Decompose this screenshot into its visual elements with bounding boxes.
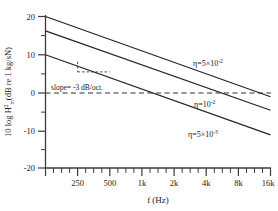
curve-label-eta-5e-2: η=5×10-2 <box>193 58 223 68</box>
chart-figure: 20 10 0 -10 -20 10 log H2m(dB re 1 kg/sN… <box>0 0 278 211</box>
y-tick-label-0: 0 <box>31 88 35 98</box>
y-tick-label-20: 20 <box>27 12 36 22</box>
x-tick-label-1k: 1k <box>138 178 147 188</box>
curve-label-eta-1e-2: η=10-2 <box>194 99 216 109</box>
y-tick-label-neg10: -10 <box>24 126 35 136</box>
x-tick-label-500: 500 <box>103 178 116 188</box>
x-tick-label-16k: 16k <box>262 178 276 188</box>
chart-canvas: 20 10 0 -10 -20 10 log H2m(dB re 1 kg/sN… <box>0 0 278 211</box>
x-tick-label-250: 250 <box>71 178 84 188</box>
x-tick-label-8k: 8k <box>234 178 243 188</box>
y-tick-label-neg20: -20 <box>24 163 35 173</box>
y-axis-title: 10 log H2m(dB re 1 kg/sN) <box>3 47 15 137</box>
curve-label-eta-5e-3: η=5×10-3 <box>188 129 218 139</box>
curve-label-eta-1e-2-sup: -2 <box>211 99 216 105</box>
x-minor-ticks <box>54 168 263 173</box>
y-tick-label-10: 10 <box>27 50 36 60</box>
curve-label-eta-1e-2-lead: η=10 <box>194 100 211 109</box>
curve-label-eta-5e-3-sup: -3 <box>213 129 218 135</box>
y-axis-title-text: 10 log H2m(dB re 1 kg/sN) <box>3 47 15 137</box>
x-tick-label-2k: 2k <box>170 178 179 188</box>
y-axis-title-lead: 10 log H <box>3 107 13 137</box>
y-major-ticks <box>38 17 46 169</box>
curve-label-eta-5e-3-lead: η=5×10 <box>188 130 213 139</box>
curve-eta-5e-3 <box>46 55 271 135</box>
curve-label-eta-5e-2-lead: η=5×10 <box>193 59 218 68</box>
slope-construction-triangle <box>78 62 110 72</box>
slope-annotation-text: slope= -3 dB/oct. <box>51 83 103 92</box>
curve-label-eta-5e-2-sup: -2 <box>218 58 223 64</box>
y-axis-title-units: (dB re 1 kg/sN) <box>3 47 13 100</box>
x-axis-title: f (Hz) <box>147 195 169 205</box>
data-curves-group <box>46 17 271 135</box>
x-tick-label-4k: 4k <box>202 178 211 188</box>
curve-eta-1e-2 <box>46 31 271 110</box>
